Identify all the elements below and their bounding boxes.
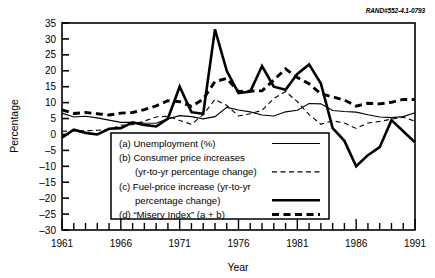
chart-legend: (a) Unemployment (%)(b) Consumer price i… [111,133,329,220]
legend-label: (a) Unemployment (%) [119,138,216,149]
x-tick-label: 1986 [345,238,368,249]
legend-label: (d) “Misery Index” (a + b) [119,209,225,220]
legend-label: (yr-to-yr percentage change) [135,166,257,177]
x-tick-label: 1981 [286,238,309,249]
x-axis-tick-labels: 1961196619711976198119861991 [51,238,427,249]
y-tick-label: 25 [45,49,57,60]
chart-figure: RAND#552-4.1-0793 –30–25–20–15–10–505101… [0,0,435,278]
legend-label: percentage change) [135,195,220,206]
x-tick-label: 1991 [404,238,427,249]
line-chart: –30–25–20–15–10–505101520253035 19611966… [0,0,435,278]
y-axis-title: Percentage [8,99,20,153]
x-tick-label: 1971 [169,238,192,249]
legend-label: (c) Fuel-price increase (yr-to-yr [119,181,251,192]
y-tick-label: –10 [39,161,56,172]
y-tick-label: 20 [45,65,57,76]
y-tick-label: 10 [45,97,57,108]
legend-label: (b) Consumer price increases [119,152,245,163]
y-tick-label: 35 [45,18,57,29]
x-tick-label: 1966 [110,238,133,249]
y-tick-label: –15 [39,177,56,188]
y-tick-label: –20 [39,193,56,204]
y-tick-label: 15 [45,81,57,92]
y-tick-label: 30 [45,34,57,45]
y-tick-label: –5 [45,145,57,156]
y-tick-label: –25 [39,209,56,220]
y-tick-label: 5 [50,113,56,124]
x-tick-label: 1976 [227,238,250,249]
y-tick-label: –30 [39,225,56,236]
y-axis-tick-labels: –30–25–20–15–10–505101520253035 [39,18,56,236]
x-tick-label: 1961 [51,238,74,249]
y-tick-label: 0 [50,129,56,140]
x-axis-title: Year [227,261,249,273]
